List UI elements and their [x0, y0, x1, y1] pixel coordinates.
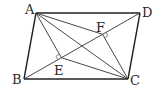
label-A: A	[24, 2, 35, 17]
label-B: B	[12, 72, 22, 85]
segment-AB	[24, 13, 36, 79]
geometry-figure: A D B C E F	[0, 0, 159, 85]
label-C: C	[130, 73, 140, 85]
label-D: D	[142, 5, 152, 20]
segment-CD	[128, 13, 140, 79]
segment-AC	[36, 13, 128, 79]
label-F: F	[96, 20, 105, 35]
label-E: E	[54, 63, 64, 78]
